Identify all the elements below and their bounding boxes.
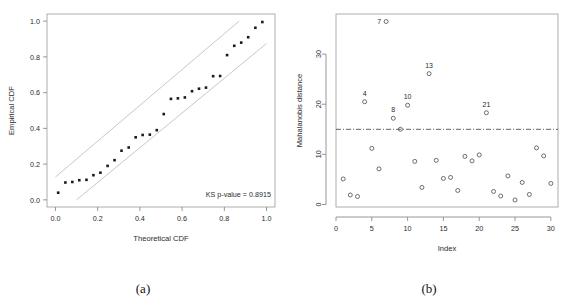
- data-point: [184, 96, 187, 99]
- data-point: [120, 149, 123, 152]
- data-point: [85, 179, 88, 182]
- data-point: [57, 191, 60, 194]
- data-point: [127, 146, 130, 149]
- data-point: [520, 180, 524, 184]
- data-point: [247, 36, 250, 39]
- data-point: [370, 146, 374, 150]
- caption-a: (a): [0, 281, 286, 297]
- data-point: [427, 72, 431, 76]
- point-label: 7: [377, 18, 381, 25]
- ks-pvalue-annotation: KS p-value = 0.8915: [206, 190, 271, 199]
- data-point: [384, 20, 388, 24]
- data-point: [261, 21, 264, 24]
- data-point: [177, 97, 180, 100]
- data-point: [205, 86, 208, 89]
- upper-confidence-band: [55, 21, 239, 177]
- data-point: [71, 181, 74, 184]
- data-point: [113, 159, 116, 162]
- data-point: [434, 158, 438, 162]
- x-axis-label: Theoretical CDF: [133, 234, 189, 243]
- x-tick-label: 0.8: [219, 214, 229, 223]
- panel-b: 0510152025300102030IndexMahalanobis dist…: [286, 0, 572, 265]
- data-point: [527, 192, 531, 196]
- panel-a: 0.00.20.40.60.81.00.00.20.40.60.81.0Theo…: [0, 0, 286, 265]
- data-point: [198, 87, 201, 90]
- y-tick-label: 0.0: [30, 196, 40, 205]
- y-tick-label: 0: [314, 202, 323, 206]
- x-tick-label: 25: [511, 224, 519, 233]
- qq-plot-svg: 0.00.20.40.60.81.00.00.20.40.60.81.0Theo…: [0, 0, 286, 265]
- x-tick-label: 0.0: [50, 214, 60, 223]
- data-point: [78, 179, 81, 182]
- point-label-group: 478101321: [363, 18, 491, 113]
- lower-confidence-band: [77, 43, 267, 199]
- data-point: [463, 154, 467, 158]
- x-axis-label: Index: [438, 244, 457, 253]
- y-axis-label: Empirical CDF: [7, 86, 16, 135]
- data-point: [413, 159, 417, 163]
- y-axis-label: Mahalanobis distance: [295, 74, 304, 147]
- x-tick-label: 1.0: [262, 214, 272, 223]
- x-tick-label: 0.6: [177, 214, 187, 223]
- data-point: [99, 171, 102, 174]
- data-point: [355, 194, 359, 198]
- mahalanobis-plot-svg: 0510152025300102030IndexMahalanobis dist…: [286, 0, 572, 265]
- data-point: [484, 111, 488, 115]
- data-point: [348, 193, 352, 197]
- y-tick-label: 0.2: [30, 160, 40, 169]
- data-point: [134, 136, 137, 139]
- data-point: [191, 90, 194, 93]
- data-point: [470, 159, 474, 163]
- x-tick-label: 0: [334, 224, 338, 233]
- y-tick-label: 20: [314, 100, 323, 108]
- x-tick-label: 10: [404, 224, 412, 233]
- data-point: [254, 26, 257, 29]
- data-point: [141, 134, 144, 137]
- x-tick-label: 5: [370, 224, 374, 233]
- point-label: 21: [482, 101, 490, 108]
- data-point: [170, 98, 173, 101]
- x-tick-label: 15: [439, 224, 447, 233]
- data-point: [363, 100, 367, 104]
- data-point: [162, 113, 165, 116]
- data-point: [155, 129, 158, 132]
- panel-b-canvas: 0510152025300102030IndexMahalanobis dist…: [286, 0, 572, 265]
- data-point: [542, 154, 546, 158]
- x-tick-label: 30: [547, 224, 555, 233]
- data-point: [341, 177, 345, 181]
- mahalanobis-point-group: [341, 20, 553, 202]
- point-label: 8: [391, 106, 395, 113]
- data-point: [233, 45, 236, 48]
- data-point: [477, 153, 481, 157]
- data-point: [406, 103, 410, 107]
- data-point: [492, 189, 496, 193]
- data-point: [92, 174, 95, 177]
- y-tick-label: 1.0: [30, 17, 40, 26]
- data-point: [535, 146, 539, 150]
- point-label: 4: [363, 90, 367, 97]
- plot-frame: [336, 14, 558, 207]
- point-label: 10: [404, 93, 412, 100]
- data-point: [64, 181, 67, 184]
- y-tick-label: 0.4: [30, 124, 40, 133]
- data-point: [219, 75, 222, 78]
- data-point: [513, 198, 517, 202]
- x-tick-label: 20: [475, 224, 483, 233]
- data-point: [549, 181, 553, 185]
- data-point: [449, 175, 453, 179]
- data-point: [240, 41, 243, 44]
- data-point: [149, 133, 152, 136]
- ecdf-point-group: [57, 21, 264, 194]
- panel-a-canvas: 0.00.20.40.60.81.00.00.20.40.60.81.0Theo…: [0, 0, 286, 265]
- data-point: [106, 165, 109, 168]
- data-point: [456, 188, 460, 192]
- y-tick-label: 0.8: [30, 53, 40, 62]
- data-point: [499, 194, 503, 198]
- caption-b: (b): [286, 281, 572, 297]
- data-point: [391, 116, 395, 120]
- data-point: [226, 54, 229, 57]
- figure-container: 0.00.20.40.60.81.00.00.20.40.60.81.0Theo…: [0, 0, 572, 301]
- data-point: [441, 176, 445, 180]
- data-point: [377, 167, 381, 171]
- x-tick-label: 0.4: [135, 214, 145, 223]
